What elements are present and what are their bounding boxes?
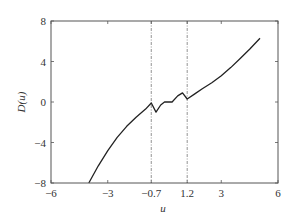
y-tick-label: 8 — [41, 15, 47, 27]
series-line — [89, 38, 260, 183]
x-tick-label: 1.2 — [180, 187, 194, 199]
chart: −6−3−0.71.236 840−4−8 u D(u) — [0, 0, 289, 218]
x-tick-label: 6 — [275, 187, 281, 199]
y-tick-label: 0 — [41, 96, 47, 108]
x-tick-label: −0.7 — [141, 187, 161, 199]
x-axis-ticks: −6−3−0.71.236 — [45, 21, 281, 199]
x-axis-label: u — [160, 202, 166, 214]
data-series — [89, 38, 260, 183]
y-axis-label: D(u) — [15, 91, 28, 113]
y-tick-label: 4 — [41, 56, 47, 68]
x-tick-label: −6 — [45, 187, 57, 199]
y-tick-label: −4 — [34, 137, 46, 149]
y-tick-label: −8 — [34, 177, 46, 189]
y-axis-ticks: 840−4−8 — [34, 15, 278, 189]
x-tick-label: −3 — [102, 187, 114, 199]
x-tick-label: 3 — [219, 187, 225, 199]
